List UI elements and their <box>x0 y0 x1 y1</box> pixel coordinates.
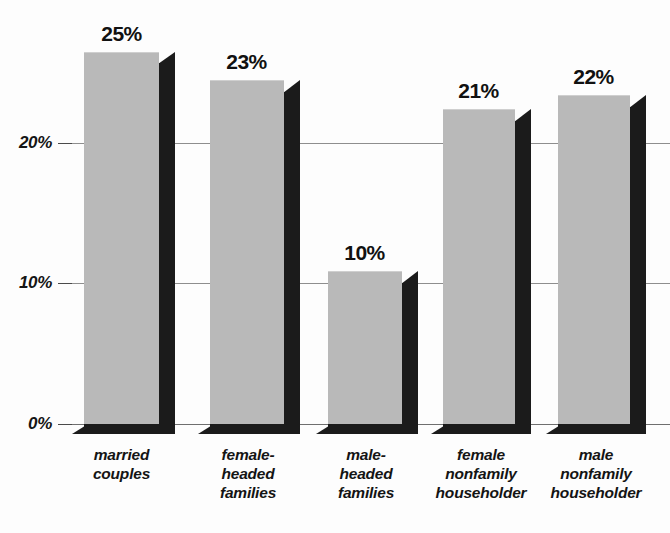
y-axis-tick-mark-0 <box>58 424 72 425</box>
bar-shadow <box>210 424 300 434</box>
bar-shadow-bevel <box>431 424 447 434</box>
bar-value-label: 23% <box>204 50 289 74</box>
y-axis-tick-label-20: 20% <box>0 133 52 153</box>
bar-front-face <box>443 109 515 424</box>
bar-category-label: male- headed families <box>316 445 416 502</box>
bar-value-label: 25% <box>79 22 164 46</box>
bar-front-face <box>328 271 402 424</box>
bar-category-label: female- headed families <box>198 445 298 502</box>
bar-value-label: 10% <box>322 241 407 265</box>
bar-side-face <box>283 92 300 424</box>
bar-shadow <box>443 424 531 434</box>
bar-top-bevel <box>158 52 175 64</box>
y-axis-tick-mark-10 <box>58 283 72 284</box>
bar-category-label: female nonfamily householder <box>422 445 540 502</box>
bar-chart: 20% 10% 0% 25% married couples 23% femal… <box>0 0 670 533</box>
bar-front-face <box>558 95 630 424</box>
bar-value-label: 21% <box>436 79 521 103</box>
bar-side-face <box>514 121 531 424</box>
bar-category-label: male nonfamily householder <box>537 445 655 502</box>
bar-front-face <box>84 52 159 424</box>
bar-side-face <box>629 107 646 424</box>
bar-shadow-bevel <box>316 424 332 434</box>
bar-front-face <box>210 80 284 424</box>
y-axis-tick-label-10: 10% <box>0 273 52 293</box>
bar-category-label: married couples <box>74 445 169 483</box>
bar-side-face <box>158 63 175 424</box>
y-axis-tick-label-0: 0% <box>0 414 52 434</box>
bar-value-label: 22% <box>551 65 636 89</box>
bar-side-face <box>401 283 418 424</box>
bar-shadow <box>558 424 646 434</box>
bar-shadow-bevel <box>198 424 214 434</box>
y-axis-tick-mark-20 <box>58 143 72 144</box>
bar-shadow <box>84 424 175 434</box>
bar-shadow <box>328 424 418 434</box>
